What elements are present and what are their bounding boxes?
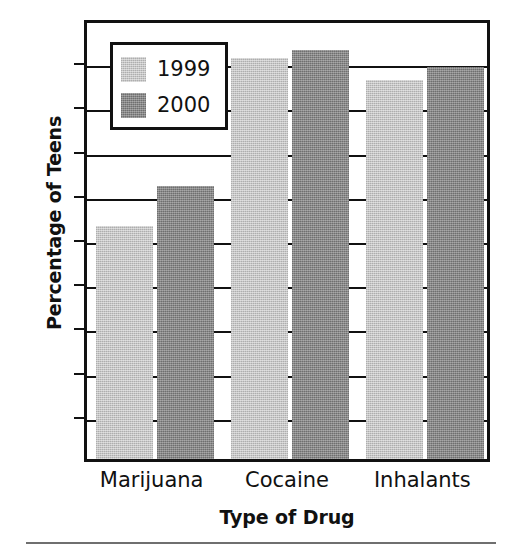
legend-item-1999: 1999 bbox=[121, 51, 225, 87]
bar-cocaine-2000 bbox=[292, 50, 349, 459]
bottom-divider bbox=[26, 542, 496, 544]
bar-chart: Percentage of Teens 10090807060504030201… bbox=[0, 0, 508, 556]
x-tick-label-inhalants: Inhalants bbox=[342, 470, 502, 491]
bar-inhalants-2000 bbox=[427, 67, 484, 459]
x-axis-title: Type of Drug bbox=[84, 506, 490, 528]
bar-marijuana-1999 bbox=[96, 226, 153, 459]
bar-inhalants-1999 bbox=[366, 80, 423, 459]
legend-label-1999: 1999 bbox=[157, 59, 210, 80]
legend: 1999 2000 bbox=[110, 42, 228, 130]
legend-swatch-2000 bbox=[121, 93, 146, 118]
legend-label-2000: 2000 bbox=[157, 95, 210, 116]
plot-area: 1999 2000 bbox=[84, 20, 490, 462]
legend-swatch-1999 bbox=[121, 57, 146, 82]
bar-marijuana-2000 bbox=[157, 186, 214, 459]
legend-item-2000: 2000 bbox=[121, 87, 225, 123]
bar-cocaine-1999 bbox=[231, 58, 288, 459]
